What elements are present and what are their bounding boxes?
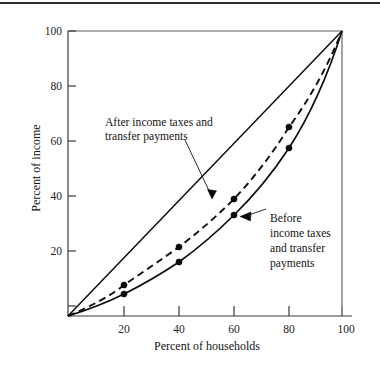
after-tax-data-points bbox=[121, 124, 292, 288]
after-annotation-text: After income taxes and transfer payments bbox=[105, 116, 213, 143]
data-point-before-40 bbox=[176, 259, 182, 265]
x-axis-title: Percent of households bbox=[154, 339, 260, 353]
data-point-before-60 bbox=[231, 212, 237, 218]
lorenz-chart-canvas: 100 80 60 40 20 20 40 60 80 100 Percent … bbox=[0, 0, 380, 365]
lorenz-curve-figure: 100 80 60 40 20 20 40 60 80 100 Percent … bbox=[0, 0, 380, 365]
y-tick-label-20: 20 bbox=[51, 245, 63, 257]
before-annotation-leader bbox=[240, 209, 266, 221]
x-axis-ticks bbox=[124, 306, 342, 316]
after-annotation-line-2: transfer payments bbox=[105, 130, 188, 143]
x-tick-label-20: 20 bbox=[118, 323, 130, 335]
x-tick-label-40: 40 bbox=[173, 323, 185, 335]
x-tick-label-60: 60 bbox=[228, 323, 240, 335]
y-tick-label-60: 60 bbox=[51, 135, 63, 147]
x-tick-label-100: 100 bbox=[337, 323, 355, 335]
before-leader-arrowhead bbox=[240, 212, 251, 221]
before-annotation-line-3: and transfer bbox=[270, 242, 325, 255]
y-tick-label-100: 100 bbox=[45, 25, 63, 37]
data-point-before-20 bbox=[121, 291, 127, 297]
before-annotation-line-4: payments bbox=[270, 257, 315, 270]
y-axis-title: Percent of income bbox=[29, 124, 43, 211]
before-annotation-line-1: Before bbox=[270, 212, 302, 225]
data-point-after-20 bbox=[121, 282, 127, 288]
y-axis-ticks bbox=[68, 31, 76, 306]
equality-line-series bbox=[68, 31, 342, 316]
before-annotation-text: Before income taxes and transfer payment… bbox=[270, 212, 331, 270]
x-tick-label-80: 80 bbox=[283, 323, 295, 335]
after-annotation-line-1: After income taxes and bbox=[105, 116, 213, 129]
data-point-after-80 bbox=[286, 124, 292, 130]
data-point-after-60 bbox=[231, 196, 237, 202]
data-point-after-40 bbox=[176, 244, 182, 250]
y-tick-label-40: 40 bbox=[51, 190, 63, 202]
before-tax-data-points bbox=[121, 145, 292, 297]
after-leader-arrowhead bbox=[208, 190, 217, 200]
data-point-before-80 bbox=[286, 145, 292, 151]
y-tick-label-80: 80 bbox=[51, 80, 63, 92]
before-annotation-line-2: income taxes bbox=[270, 227, 331, 240]
